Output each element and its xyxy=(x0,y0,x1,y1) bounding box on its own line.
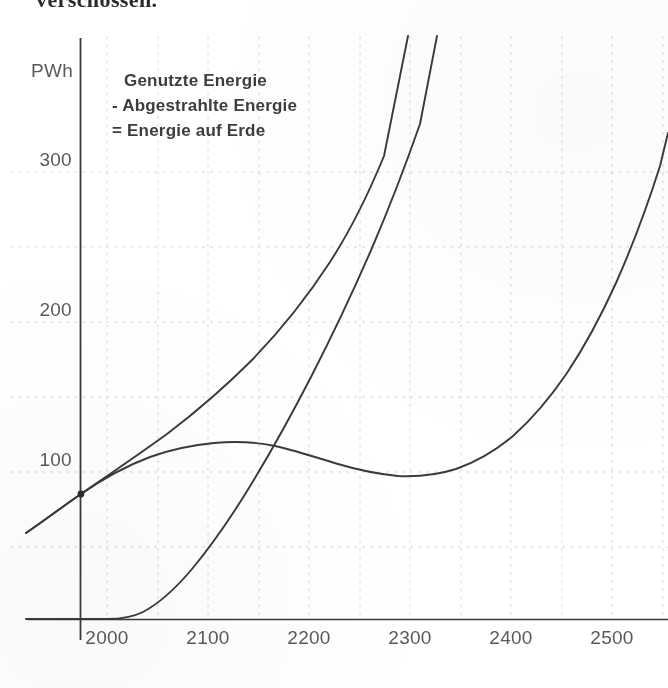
legend-line-abgestrahlte-energie: - Abgestrahlte Energie xyxy=(110,93,297,118)
x-tick-2200: 2200 xyxy=(269,627,349,649)
y-tick-200: 200 xyxy=(8,299,72,321)
y-axis-unit-label: PWh xyxy=(31,60,73,82)
legend-annotation-block: Genutzte Energie - Abgestrahlte Energie … xyxy=(110,68,297,143)
start-point-marker xyxy=(78,491,85,498)
grid-lines xyxy=(10,36,668,619)
x-tick-2000: 2000 xyxy=(67,627,147,649)
chart-page: verschossen. xyxy=(0,0,668,688)
x-tick-2100: 2100 xyxy=(168,627,248,649)
chart-plot-area xyxy=(0,0,668,688)
y-tick-100: 100 xyxy=(8,449,72,471)
legend-line-genutzte-energie: Genutzte Energie xyxy=(110,68,297,93)
y-tick-300: 300 xyxy=(8,149,72,171)
energy-chart: PWh 300 200 100 2000 2100 2200 2300 2400… xyxy=(0,0,668,688)
legend-line-energie-auf-erde: = Energie auf Erde xyxy=(110,118,297,143)
series-energie-auf-erde xyxy=(26,133,668,533)
x-tick-2400: 2400 xyxy=(471,627,551,649)
x-tick-2500: 2500 xyxy=(572,627,652,649)
x-tick-2300: 2300 xyxy=(370,627,450,649)
